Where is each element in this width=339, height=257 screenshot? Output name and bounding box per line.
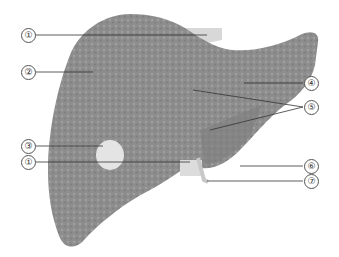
callout-5: ⑤ <box>304 100 319 115</box>
callout-2: ② <box>21 65 36 80</box>
gallbladder <box>96 140 124 170</box>
callout-6: ⑥ <box>304 159 319 174</box>
callout-7: ⑦ <box>304 174 319 189</box>
liver-shape <box>48 14 318 247</box>
callout-1b: ① <box>21 155 36 170</box>
liver-diagram: ① ② ③ ① ④ ⑤ ⑥ ⑦ <box>0 0 339 257</box>
callout-3: ③ <box>21 139 36 154</box>
callout-1a: ① <box>21 28 36 43</box>
callout-4: ④ <box>304 76 319 91</box>
liver-illustration <box>0 0 339 257</box>
